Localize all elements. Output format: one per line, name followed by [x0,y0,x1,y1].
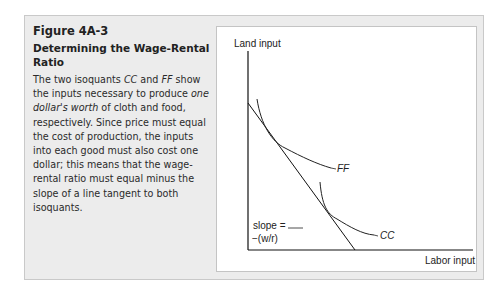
ff-isoquant [257,99,331,168]
cc-leader [374,235,378,236]
ff-leader [331,168,336,169]
ff-label: FF [337,163,349,174]
body-text-run: of cloth and food, respectively. Since p… [33,102,206,212]
slope-label-line2: −(w/r) [252,233,278,244]
figure-box: Figure 4A-3 Determining the Wage-Rental … [24,15,484,280]
emphasis-text: CC [124,74,137,85]
cc-label: CC [380,230,394,241]
figure-number: Figure 4A-3 [33,24,213,39]
body-text-run: and [137,74,161,85]
figure-caption: Figure 4A-3 Determining the Wage-Rental … [33,24,213,215]
body-text-run: The two isoquants [33,74,124,85]
slope-label-line1: slope = [253,220,286,231]
x-axis-label: Labor input [425,255,475,266]
cc-isoquant [320,182,374,235]
figure-body-text: The two isoquants CC and FF show the inp… [33,73,213,215]
chart-panel: Land input Labor input FF CC slope = −(w… [216,26,477,272]
figure-title: Determining the Wage-Rental Ratio [33,41,213,69]
emphasis-text: FF [161,74,172,85]
y-axis-label: Land input [234,38,281,49]
